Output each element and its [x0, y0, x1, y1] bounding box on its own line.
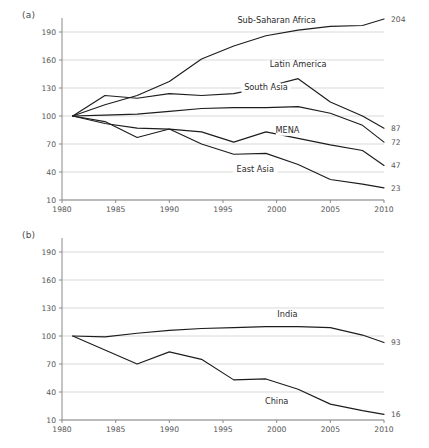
series-end-value: 93: [391, 338, 401, 347]
x-tick-label: 2005: [321, 425, 340, 434]
chart-panel-a: (a) 104070100130160190198019851990199520…: [0, 0, 429, 224]
series-label: India: [277, 309, 297, 319]
x-tick-label: 1980: [52, 425, 71, 434]
series-line: [73, 336, 384, 414]
y-tick-label: 130: [42, 84, 57, 93]
series-line: [73, 327, 384, 343]
series-label: China: [265, 396, 288, 406]
y-tick-label: 40: [46, 168, 56, 177]
series-end-value: 47: [391, 161, 401, 170]
series-end-value: 72: [391, 138, 401, 147]
series-end-value: 23: [391, 184, 401, 193]
series-line: [73, 107, 384, 142]
y-tick-label: 160: [42, 276, 57, 285]
y-tick-label: 40: [46, 388, 56, 397]
chart-panel-b: (b) 104070100130160190198019851990199520…: [0, 224, 429, 448]
series-label: South Asia: [244, 82, 288, 92]
y-tick-label: 10: [46, 416, 56, 425]
series-line: [73, 116, 384, 188]
x-tick-label: 2000: [267, 205, 286, 214]
series-label: MENA: [275, 125, 299, 135]
x-tick-label: 1990: [160, 205, 179, 214]
series-label: East Asia: [236, 164, 273, 174]
series-end-value: 204: [391, 15, 406, 24]
x-tick-label: 1985: [106, 425, 125, 434]
y-tick-label: 10: [46, 196, 56, 205]
y-tick-label: 70: [46, 140, 56, 149]
series-end-value: 87: [391, 124, 401, 133]
series-line: [73, 19, 384, 116]
series-line: [73, 79, 384, 128]
series-end-value: 16: [391, 410, 401, 419]
series-label: Latin America: [270, 59, 327, 69]
y-tick-label: 70: [46, 360, 56, 369]
x-tick-label: 2000: [267, 425, 286, 434]
series-label: Sub-Saharan Africa: [237, 15, 316, 25]
y-tick-label: 100: [42, 112, 57, 121]
y-tick-label: 160: [42, 56, 57, 65]
panel-a-plot: 1040701001301601901980198519901995200020…: [0, 0, 429, 224]
y-tick-label: 100: [42, 332, 57, 341]
x-tick-label: 1990: [160, 425, 179, 434]
y-tick-label: 190: [42, 28, 57, 37]
figure-container: (a) 104070100130160190198019851990199520…: [0, 0, 429, 448]
x-tick-label: 1995: [213, 425, 232, 434]
x-tick-label: 2010: [374, 205, 393, 214]
y-tick-label: 130: [42, 304, 57, 313]
x-tick-label: 1980: [52, 205, 71, 214]
panel-b-plot: 1040701001301601901980198519901995200020…: [0, 224, 429, 448]
y-tick-label: 190: [42, 248, 57, 257]
series-line: [73, 116, 384, 165]
x-tick-label: 2010: [374, 425, 393, 434]
x-tick-label: 1995: [213, 205, 232, 214]
x-tick-label: 2005: [321, 205, 340, 214]
x-tick-label: 1985: [106, 205, 125, 214]
